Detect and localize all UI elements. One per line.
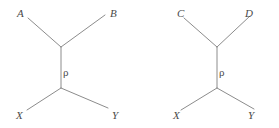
left-label-y: Y xyxy=(112,110,118,121)
right-label-x: X xyxy=(173,110,180,121)
right-leg-c xyxy=(184,18,217,47)
left-label-a: A xyxy=(17,8,24,19)
left-leg-y xyxy=(61,88,108,108)
right-leg-x xyxy=(181,88,217,110)
left-leg-x xyxy=(27,88,61,110)
right-label-c: C xyxy=(177,8,184,19)
left-label-b: B xyxy=(110,8,117,19)
left-label-propagator-rho: ρ xyxy=(63,67,69,78)
right-label-propagator-rho: ρ xyxy=(219,67,225,78)
left-leg-b xyxy=(61,15,105,47)
figure-canvas: A B ρ X Y C D ρ X Y xyxy=(0,0,279,128)
right-leg-d xyxy=(217,16,250,47)
right-label-y: Y xyxy=(248,110,254,121)
left-leg-a xyxy=(28,18,61,47)
left-label-x: X xyxy=(16,110,23,121)
left-diagram-lines xyxy=(0,0,279,128)
right-leg-y xyxy=(217,88,254,109)
right-label-d: D xyxy=(245,8,253,19)
